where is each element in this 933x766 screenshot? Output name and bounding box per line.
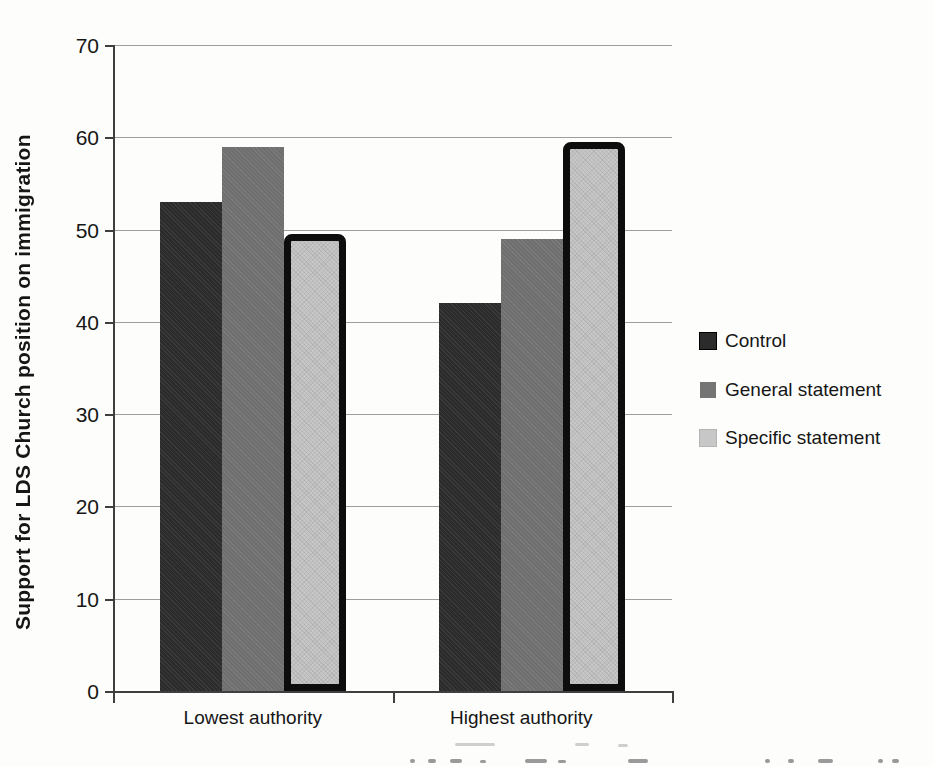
y-tick-0: [105, 691, 113, 693]
y-tick-50: [105, 230, 113, 232]
cutoff-caption-fragment: [575, 743, 589, 746]
y-tick-label-20: 20: [39, 496, 99, 517]
cutoff-caption-fragment: [410, 759, 415, 763]
cutoff-caption-fragment: [818, 759, 833, 763]
bar-general-statement-highest-authority: [501, 239, 563, 691]
y-tick-10: [105, 599, 113, 601]
cutoff-caption-fragment: [892, 759, 899, 763]
legend-swatch-general-statement: [700, 382, 716, 398]
legend-item-general-statement: General statement: [700, 379, 881, 401]
x-category-label-lowest-authority: Lowest authority: [143, 707, 363, 729]
cutoff-caption-fragment: [878, 759, 883, 763]
x-tick-1: [393, 691, 395, 703]
cutoff-caption-fragment: [428, 759, 436, 763]
cutoff-caption-fragment: [618, 744, 628, 747]
gridline-60: [113, 137, 672, 138]
cutoff-caption-fragment: [558, 760, 566, 763]
bar-general-statement-lowest-authority: [222, 147, 284, 692]
cutoff-caption-fragment: [628, 759, 648, 763]
legend-swatch-control: [700, 333, 716, 349]
bar-control-lowest-authority: [160, 202, 222, 691]
y-tick-label-40: 40: [39, 312, 99, 333]
bar-control-highest-authority: [439, 303, 501, 691]
y-tick-30: [105, 414, 113, 416]
cutoff-caption-fragment: [455, 743, 495, 746]
y-tick-label-0: 0: [39, 681, 99, 702]
bar-specific-statement-highest-authority: [563, 142, 625, 691]
y-tick-20: [105, 506, 113, 508]
cutoff-caption-fragment: [788, 759, 794, 763]
x-tick-0: [113, 691, 115, 703]
cutoff-caption-fragment: [480, 760, 486, 763]
cutoff-caption-fragment: [450, 759, 462, 763]
cutoff-caption-fragment: [525, 759, 547, 763]
legend-label: Control: [725, 330, 786, 352]
y-tick-label-10: 10: [39, 589, 99, 610]
bar-specific-statement-lowest-authority: [284, 234, 346, 691]
x-category-label-highest-authority: Highest authority: [411, 707, 631, 729]
y-tick-label-60: 60: [39, 127, 99, 148]
y-tick-60: [105, 137, 113, 139]
x-tick-2: [672, 691, 674, 703]
gridline-70: [113, 45, 672, 46]
y-tick-label-30: 30: [39, 404, 99, 425]
bar-chart-figure: Support for LDS Church position on immig…: [0, 0, 933, 766]
legend-label: General statement: [725, 379, 881, 401]
y-tick-label-50: 50: [39, 220, 99, 241]
cutoff-caption-fragment: [765, 759, 770, 763]
legend-item-specific-statement: Specific statement: [700, 427, 880, 449]
legend-item-control: Control: [700, 330, 786, 352]
y-tick-40: [105, 322, 113, 324]
y-axis-line: [113, 45, 115, 693]
legend-swatch-specific-statement: [700, 430, 716, 446]
y-tick-70: [105, 45, 113, 47]
y-tick-label-70: 70: [39, 35, 99, 56]
legend-label: Specific statement: [725, 427, 880, 449]
